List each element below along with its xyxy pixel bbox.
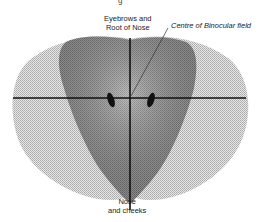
bottom-label-line1: Nose [108, 197, 146, 206]
bottom-label-line2: and cheeks [108, 206, 146, 215]
top-label-line2: Root of Nose [104, 23, 152, 32]
centre-label: Centre of Binocular field [171, 21, 251, 30]
bottom-label: Nose and cheeks [108, 197, 146, 215]
cutoff-title-fragment: g [118, 0, 122, 5]
field-chart [0, 0, 268, 222]
top-label-line1: Eyebrows and [104, 14, 152, 23]
top-label: Eyebrows and Root of Nose [104, 14, 152, 32]
binocular-field-diagram: g [0, 0, 268, 222]
